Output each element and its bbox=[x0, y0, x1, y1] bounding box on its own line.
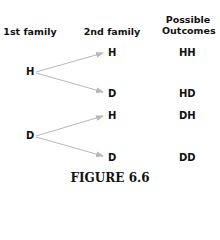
arrow-h-to-h bbox=[36, 53, 103, 72]
node-h-d: D bbox=[108, 88, 116, 99]
node-root-h: H bbox=[26, 66, 34, 77]
arrow-d-to-h bbox=[36, 116, 103, 136]
node-d-h: H bbox=[108, 110, 116, 121]
node-root-d: D bbox=[26, 130, 34, 141]
arrow-h-to-d bbox=[36, 73, 103, 92]
node-d-d: D bbox=[108, 152, 116, 163]
outcome-hd: HD bbox=[179, 88, 196, 99]
outcome-dh: DH bbox=[179, 110, 196, 121]
arrow-d-to-d bbox=[36, 137, 103, 156]
outcome-dd: DD bbox=[179, 152, 196, 163]
node-h-h: H bbox=[108, 47, 116, 58]
outcome-hh: HH bbox=[179, 47, 196, 58]
figure-caption: FIGURE 6.6 bbox=[0, 171, 220, 185]
